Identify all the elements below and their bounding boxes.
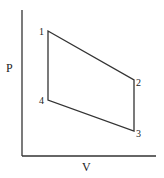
y-axis-label: P	[6, 61, 13, 75]
cycle-path	[48, 31, 134, 131]
pv-diagram: P V 1 2 3 4	[0, 0, 164, 178]
point-1-label: 1	[39, 26, 44, 37]
point-3-label: 3	[136, 128, 141, 139]
point-4-label: 4	[39, 95, 44, 106]
x-axis-label: V	[82, 160, 91, 174]
point-2-label: 2	[136, 77, 141, 88]
